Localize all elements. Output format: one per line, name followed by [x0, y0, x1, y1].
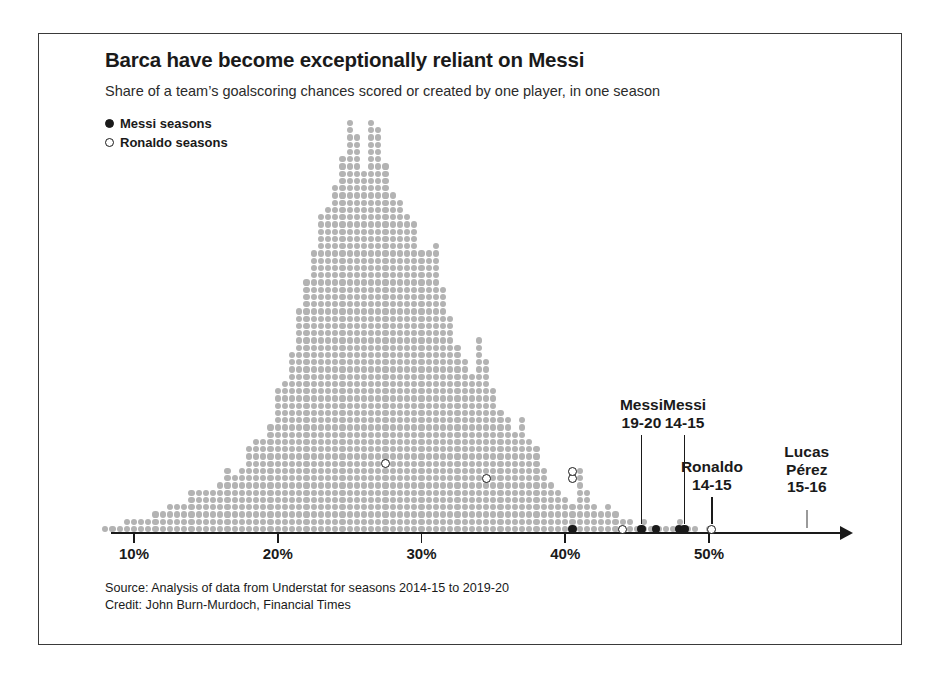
callout-leader-line-lucas-perez-15-16 [806, 510, 808, 529]
legend-item-messi: Messi seasons [105, 114, 228, 133]
chart-legend: Messi seasons Ronaldo seasons [105, 114, 228, 152]
legend-label-messi: Messi seasons [120, 116, 212, 131]
legend-label-ronaldo: Ronaldo seasons [120, 135, 228, 150]
legend-item-ronaldo: Ronaldo seasons [105, 133, 228, 152]
chart-subtitle: Share of a team’s goalscoring chances sc… [105, 83, 660, 99]
source-credit: Source: Analysis of data from Understat … [105, 580, 509, 613]
filled-dot-icon [105, 119, 114, 128]
callout-text-line: 19-20 [620, 414, 663, 432]
callout-leader-line-messi-19-20 [641, 435, 643, 524]
source-line: Source: Analysis of data from Understat … [105, 580, 509, 597]
x-axis-tick-label: 20% [263, 545, 293, 562]
x-axis-tick [421, 534, 423, 543]
x-axis-tick [277, 534, 279, 543]
callout-text-line: Ronaldo [681, 458, 743, 476]
chart-figure: Barca have become exceptionally reliant … [0, 0, 948, 678]
x-axis-tick-label: 40% [550, 545, 580, 562]
x-axis-tick [708, 534, 710, 543]
callout-text-line: Messi [663, 396, 706, 414]
x-axis-tick-label: 10% [119, 545, 149, 562]
x-axis-tick [133, 534, 135, 543]
page-title: Barca have become exceptionally reliant … [105, 48, 584, 72]
credit-line: Credit: John Burn-Murdoch, Financial Tim… [105, 597, 509, 614]
callout-text-line: 15-16 [784, 478, 829, 496]
callout-text-line: 14-15 [681, 476, 743, 494]
callout-label-messi-14-15: Messi14-15 [663, 396, 706, 431]
callout-text-line: Pérez [784, 461, 829, 479]
callout-label-ronaldo-14-15: Ronaldo14-15 [681, 458, 743, 493]
x-axis-tick-label: 30% [406, 545, 436, 562]
x-axis-arrow-icon [840, 526, 853, 540]
callout-label-lucas-perez-15-16: LucasPérez15-16 [784, 443, 829, 496]
x-axis-tick [564, 534, 566, 543]
x-axis-line [111, 532, 842, 534]
callout-label-messi-19-20: Messi19-20 [620, 396, 663, 431]
callout-text-line: 14-15 [663, 414, 706, 432]
callout-text-line: Messi [620, 396, 663, 414]
callout-text-line: Lucas [784, 443, 829, 461]
open-dot-icon [105, 138, 114, 147]
x-axis-tick-label: 50% [694, 545, 724, 562]
callout-leader-line-ronaldo-14-15 [711, 497, 713, 524]
